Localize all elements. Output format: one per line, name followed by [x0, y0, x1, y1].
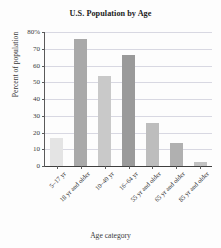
y-tick-label: 50: [33, 78, 40, 86]
x-axis-title: Age category: [0, 231, 221, 240]
bar: [98, 76, 111, 166]
y-tick-mark: [42, 99, 46, 100]
y-tick-mark: [42, 66, 46, 67]
y-axis-title: Percent of population: [11, 5, 20, 125]
y-tick-label: 40: [33, 95, 40, 103]
y-tick-label: 70: [33, 45, 40, 53]
bar: [74, 39, 87, 166]
gridline: [45, 49, 212, 50]
plot-area: 01020304050607080% 5–17 yr18 yr and olde…: [44, 32, 212, 167]
y-tick-label: 60: [33, 62, 40, 70]
y-tick-label: 0: [37, 162, 41, 170]
x-tick-mark: [176, 166, 177, 169]
y-tick-mark: [42, 82, 46, 83]
y-tick-mark: [42, 166, 46, 167]
y-tick-mark: [42, 49, 46, 50]
bar: [170, 143, 183, 166]
y-tick-label: 10: [33, 145, 40, 153]
y-tick-mark: [42, 116, 46, 117]
chart-title: U.S. Population by Age: [0, 9, 221, 18]
x-tick-mark: [200, 166, 201, 169]
x-tick-mark: [105, 166, 106, 169]
y-tick-mark: [42, 133, 46, 134]
y-tick-label: 80%: [27, 28, 40, 36]
y-tick-mark: [42, 149, 46, 150]
y-tick-label: 20: [33, 129, 40, 137]
y-tick-label: 30: [33, 112, 40, 120]
x-tick-mark: [129, 166, 130, 169]
gridline: [45, 32, 212, 33]
x-tick-mark: [81, 166, 82, 169]
y-tick-mark: [42, 32, 46, 33]
x-tick-mark: [152, 166, 153, 169]
bar: [50, 138, 63, 166]
x-tick-mark: [57, 166, 58, 169]
bar: [122, 55, 135, 166]
bar-chart-figure: U.S. Population by Age Percent of popula…: [0, 0, 221, 248]
bar: [146, 123, 159, 166]
